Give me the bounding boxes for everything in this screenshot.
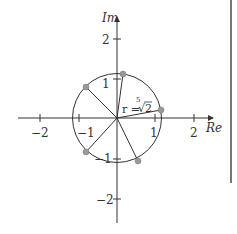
x-tick-label: 2 bbox=[190, 126, 198, 140]
side-bar bbox=[230, 0, 232, 183]
y-tick-label: 1 bbox=[102, 77, 110, 91]
imaginary-axis-label: Im bbox=[101, 11, 118, 25]
y-tick-label: −1 bbox=[94, 152, 112, 166]
root-point bbox=[135, 158, 141, 164]
complex-plane-diagram: −2 −1 1 2 2 1 −1 −2 Re Im r = 5 √2 bbox=[0, 0, 237, 234]
root-point bbox=[83, 84, 89, 90]
root-point bbox=[120, 71, 126, 77]
x-tick-label: −2 bbox=[31, 126, 49, 140]
x-tick-label: −1 bbox=[77, 126, 95, 140]
y-tick-label: −2 bbox=[96, 193, 114, 207]
root-point bbox=[83, 149, 89, 155]
real-axis-label: Re bbox=[205, 121, 222, 135]
y-tick-label: 2 bbox=[102, 33, 110, 47]
radius-label-radical: √2 bbox=[138, 102, 152, 115]
root-point bbox=[158, 107, 164, 113]
